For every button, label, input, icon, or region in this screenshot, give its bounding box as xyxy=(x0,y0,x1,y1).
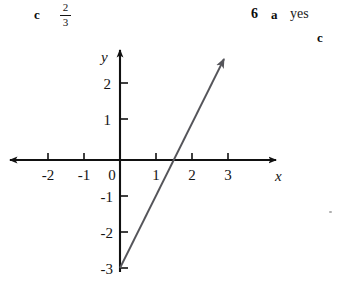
graph-svg: y x -2 -1 0 1 2 3 2 1 -1 -2 -3 xyxy=(0,40,338,281)
x-axis-label: x xyxy=(274,168,282,184)
fraction-denominator: 3 xyxy=(61,17,71,29)
x-tick-label-3: 3 xyxy=(224,167,232,183)
answer-key-page: c 2 3 6 a yes c xyxy=(0,0,338,281)
y-tick-label-1: 1 xyxy=(104,112,112,128)
plotted-line xyxy=(120,59,224,268)
fraction-numerator: 2 xyxy=(61,2,71,14)
y-tick-label-2: 2 xyxy=(104,76,112,92)
y-axis-label: y xyxy=(99,49,108,65)
x-axis xyxy=(10,153,276,160)
answer-text-yes: yes xyxy=(290,7,309,21)
x-tick-label-1: 1 xyxy=(152,167,160,183)
x-tick-label--2: -2 xyxy=(42,167,55,183)
answer-label-a: a xyxy=(271,8,278,21)
answer-label-c-left: c xyxy=(34,8,40,21)
x-tick-label-2: 2 xyxy=(188,167,196,183)
x-tick-label--1: -1 xyxy=(78,167,91,183)
x-tick-label-0: 0 xyxy=(108,167,116,183)
y-tick-label--3: -3 xyxy=(101,261,114,277)
fraction-two-thirds: 2 3 xyxy=(60,2,71,28)
scan-speck xyxy=(329,211,332,213)
question-number-6: 6 xyxy=(251,7,258,21)
coordinate-graph: y x -2 -1 0 1 2 3 2 1 -1 -2 -3 xyxy=(0,40,338,281)
y-tick-label--2: -2 xyxy=(101,225,114,241)
y-tick-label--1: -1 xyxy=(101,189,114,205)
